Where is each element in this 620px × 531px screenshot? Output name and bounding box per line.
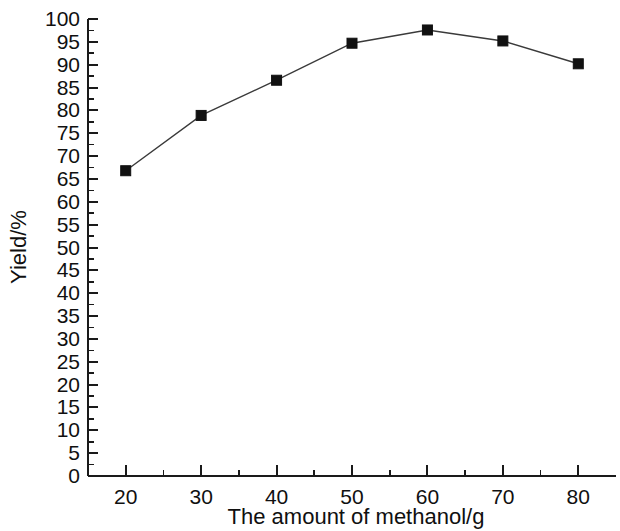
y-tick-label: 90: [57, 53, 80, 76]
x-tick-label: 20: [114, 485, 137, 508]
y-tick-label: 85: [57, 76, 80, 99]
y-tick-label: 75: [57, 121, 80, 144]
x-tick-label: 80: [567, 485, 590, 508]
y-tick-label: 5: [68, 441, 80, 464]
data-point-marker: [196, 110, 206, 120]
y-tick-label: 40: [57, 281, 80, 304]
data-point-marker: [347, 38, 357, 48]
y-tick-label: 65: [57, 167, 80, 190]
y-tick-label: 60: [57, 190, 80, 213]
y-tick-label: 15: [57, 395, 80, 418]
x-tick-label: 70: [491, 485, 514, 508]
data-point-marker: [272, 75, 282, 85]
y-axis-major-ticks: [88, 19, 98, 476]
y-tick-label: 0: [68, 464, 80, 487]
y-tick-label: 95: [57, 30, 80, 53]
x-axis-title: The amount of methanol/g: [228, 504, 485, 529]
y-tick-label: 55: [57, 213, 80, 236]
y-tick-label: 45: [57, 258, 80, 281]
y-tick-label: 25: [57, 350, 80, 373]
data-point-marker: [498, 36, 508, 46]
y-axis-title: Yield/%: [6, 210, 31, 284]
chart-container: 0510152025303540455055606570758085909510…: [0, 0, 620, 531]
data-point-marker: [121, 166, 131, 176]
x-tick-label: 30: [189, 485, 212, 508]
y-tick-label: 70: [57, 144, 80, 167]
y-tick-label: 10: [57, 418, 80, 441]
y-tick-label: 20: [57, 373, 80, 396]
data-point-marker: [573, 59, 583, 69]
y-tick-label: 50: [57, 236, 80, 259]
y-tick-label: 80: [57, 98, 80, 121]
y-tick-label: 100: [45, 7, 80, 30]
yield-vs-methanol-line-chart: 0510152025303540455055606570758085909510…: [0, 0, 620, 531]
data-point-marker: [422, 25, 432, 35]
y-tick-label: 35: [57, 304, 80, 327]
y-tick-label: 30: [57, 327, 80, 350]
chart-background: [0, 0, 620, 531]
